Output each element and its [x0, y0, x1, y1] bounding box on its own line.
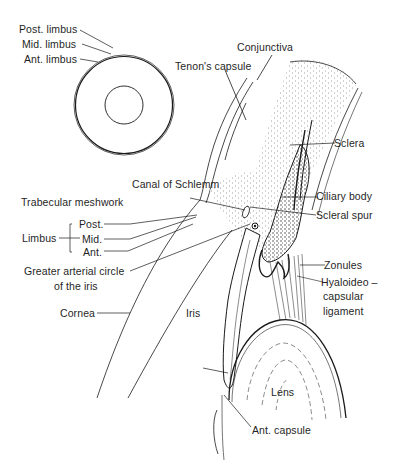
label-canal-of-schlemm: Canal of Schlemm: [132, 178, 219, 190]
eye-limbus-diagram: Post. limbus Mid. limbus Ant. limbus Con…: [0, 0, 393, 466]
label-sclera: Sclera: [334, 137, 364, 149]
label-greater-arterial-circle: Greater arterial circle: [24, 265, 124, 277]
label-ciliary-body: Ciliary body: [316, 190, 372, 202]
label-scleral-spur: Scleral spur: [316, 209, 373, 221]
cornea: [97, 200, 232, 398]
label-limbus-ant: Ant.: [83, 246, 102, 258]
label-tenons-capsule: Tenon's capsule: [175, 60, 251, 72]
label-ant-limbus: Ant. limbus: [24, 53, 77, 65]
label-lens: Lens: [271, 386, 294, 398]
label-conjunctiva: Conjunctiva: [237, 41, 293, 53]
label-greater-arterial-circle-2: of the iris: [54, 280, 98, 292]
label-iris: Iris: [186, 307, 200, 319]
inset-frontal-view: [74, 30, 174, 155]
label-cornea: Cornea: [60, 307, 95, 319]
label-limbus-post: Post.: [79, 218, 103, 230]
label-hyaloideo-capsular-ligament-3: ligament: [323, 305, 364, 317]
label-hyaloideo-capsular-ligament-2: capsular: [323, 290, 364, 302]
label-limbus-mid: Mid.: [82, 233, 102, 245]
label-trabecular-meshwork: Trabecular meshwork: [21, 196, 123, 208]
lens: [229, 320, 346, 420]
label-mid-limbus: Mid. limbus: [22, 38, 76, 50]
label-limbus: Limbus: [22, 232, 56, 244]
label-post-limbus: Post. limbus: [19, 23, 77, 35]
label-ant-capsule: Ant. capsule: [252, 424, 311, 436]
label-zonules: Zonules: [324, 259, 362, 271]
label-hyaloideo-capsular-ligament: Hyaloideo –: [321, 276, 378, 288]
iris: [223, 228, 260, 388]
